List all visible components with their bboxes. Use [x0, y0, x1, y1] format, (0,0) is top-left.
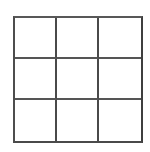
grid-cell-r1c2[interactable] — [57, 18, 99, 59]
grid-cell-label — [57, 100, 97, 141]
grid-cell-label — [57, 59, 97, 98]
grid-cell-label — [57, 18, 97, 57]
grid-cell-r1c1[interactable] — [15, 18, 57, 59]
grid-cell-r2c1[interactable] — [15, 59, 57, 100]
grid-cell-r3c3[interactable] — [99, 100, 141, 141]
grid-cell-label — [15, 100, 55, 141]
grid-cell-r3c2[interactable] — [57, 100, 99, 141]
grid-3x3 — [13, 16, 143, 143]
grid-cell-label — [15, 59, 55, 98]
grid-cell-label — [15, 18, 55, 57]
grid-cell-label — [99, 59, 141, 98]
grid-cell-r2c2[interactable] — [57, 59, 99, 100]
grid-cell-r2c3[interactable] — [99, 59, 141, 100]
grid-cell-label — [99, 100, 141, 141]
figure-canvas — [0, 0, 150, 152]
grid-cell-r1c3[interactable] — [99, 18, 141, 59]
grid-cell-r3c1[interactable] — [15, 100, 57, 141]
grid-cell-label — [99, 18, 141, 57]
